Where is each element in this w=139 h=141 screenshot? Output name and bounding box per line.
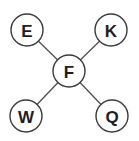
node-q-label: Q <box>105 108 118 127</box>
diagram-canvas: E K F W Q <box>0 0 139 141</box>
node-k-label: K <box>105 22 118 41</box>
node-w: W <box>10 100 42 132</box>
node-f: F <box>53 55 85 87</box>
node-w-label: W <box>18 108 35 127</box>
node-e: E <box>11 14 43 46</box>
graph-svg: E K F W Q <box>0 0 139 141</box>
node-f-label: F <box>64 63 74 82</box>
node-q: Q <box>96 100 128 132</box>
node-k: K <box>95 14 127 46</box>
node-e-label: E <box>21 22 32 41</box>
